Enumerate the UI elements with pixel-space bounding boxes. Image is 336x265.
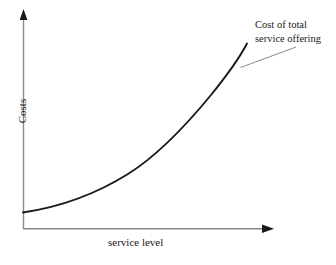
curve-annotation-line-2: service offering [255, 32, 321, 46]
y-axis-label: Costs [16, 81, 28, 141]
annotation-leader-line [241, 47, 297, 68]
x-axis-arrow-icon [262, 225, 274, 233]
curve-annotation-line-1: Cost of total [255, 18, 321, 32]
chart-figure: Costs service level Cost of total servic… [0, 0, 336, 265]
curve-annotation: Cost of total service offering [255, 18, 321, 46]
x-axis-label: service level [108, 236, 163, 248]
cost-curve [23, 44, 247, 213]
y-axis-arrow-icon [20, 9, 28, 20]
